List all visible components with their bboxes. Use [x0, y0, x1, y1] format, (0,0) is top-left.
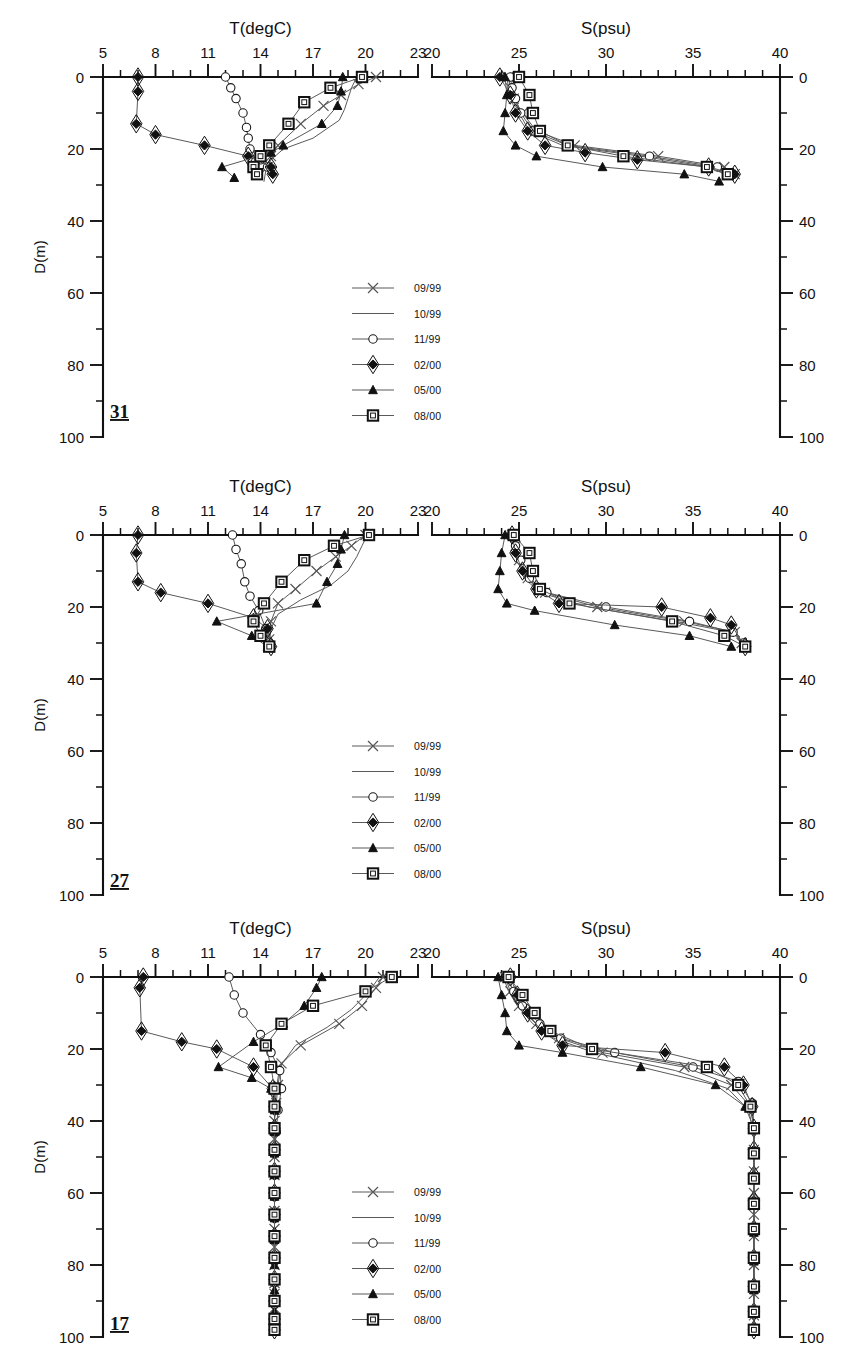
open-circle-marker	[225, 973, 233, 981]
legend: 09/9910/9911/9902/0005/0008/00	[352, 740, 441, 880]
profile-figure: 020406080100D(m)020406080100581114172023…	[0, 0, 853, 1366]
legend-item-10-99[interactable]: 10/99	[352, 308, 441, 320]
legend-item-02-00[interactable]: 02/00	[352, 355, 441, 373]
temperature-tick-label: 20	[357, 44, 374, 61]
depth-tick-label: 20	[799, 599, 816, 616]
filled-triangle-marker	[501, 108, 510, 116]
open-circle-marker	[221, 73, 229, 81]
square-inner	[527, 93, 532, 98]
depth-axis-left: 020406080100D(m)	[31, 969, 103, 1346]
square-inner	[279, 579, 284, 584]
legend-label: 09/99	[414, 282, 441, 294]
open-circle-marker	[239, 109, 247, 117]
square-inner	[263, 1043, 268, 1048]
legend-label: 08/00	[414, 1314, 441, 1326]
square-inner	[363, 989, 368, 994]
square-inner	[752, 1309, 757, 1314]
salinity-tick-label: 20	[424, 944, 441, 961]
temperature-tick-label: 14	[252, 502, 269, 519]
depth-tick-label: 40	[67, 1113, 84, 1130]
legend-item-02-00[interactable]: 02/00	[352, 813, 441, 831]
square-inner	[565, 143, 570, 148]
filled-triangle-marker	[495, 566, 504, 574]
square-inner	[520, 993, 525, 998]
depth-tick-label: 60	[67, 743, 84, 760]
station-31-temperature: 581114172023T(degC)	[99, 19, 427, 183]
salinity-tick-label: 25	[511, 44, 528, 61]
square-inner	[389, 975, 394, 980]
square-inner	[752, 1284, 757, 1289]
square-inner	[752, 1255, 757, 1260]
series-line	[140, 977, 275, 1330]
square-inner	[311, 1003, 316, 1008]
square-inner	[272, 1327, 277, 1332]
legend-label: 09/99	[414, 1186, 441, 1198]
legend-item-10-99[interactable]: 10/99	[352, 1212, 441, 1224]
depth-tick-label: 0	[799, 969, 807, 986]
open-circle-marker	[246, 592, 254, 600]
depth-tick-label: 100	[799, 1329, 824, 1346]
salinity-axis-title: S(psu)	[581, 19, 631, 38]
legend-item-08-00[interactable]: 08/00	[352, 1314, 441, 1326]
legend-item-11-99[interactable]: 11/99	[352, 791, 441, 803]
square-inner	[258, 154, 263, 159]
temperature-tick-label: 20	[357, 944, 374, 961]
salinity-tick-label: 35	[685, 44, 702, 61]
square-inner	[705, 1065, 710, 1070]
temperature-tick-label: 17	[305, 502, 322, 519]
legend-item-10-99[interactable]: 10/99	[352, 766, 441, 778]
legend-item-09-99[interactable]: 09/99	[352, 740, 441, 752]
salinity-tick-label: 30	[598, 502, 615, 519]
salinity-axis-title: S(psu)	[581, 477, 631, 496]
depth-tick-label: 40	[67, 213, 84, 230]
station-label: 17	[110, 1313, 130, 1334]
filled-triangle-marker	[312, 983, 321, 991]
salinity-tick-label: 35	[685, 502, 702, 519]
panel-station-17: 020406080100D(m)020406080100581114172023…	[0, 900, 853, 1360]
open-circle-marker	[685, 617, 693, 625]
legend-item-02-00[interactable]: 02/00	[352, 1259, 441, 1277]
legend-item-08-00[interactable]: 08/00	[352, 410, 441, 422]
depth-axis-right: 020406080100	[780, 69, 824, 446]
square-inner	[531, 111, 536, 116]
legend-item-08-00[interactable]: 08/00	[352, 868, 441, 880]
filled-triangle-marker	[249, 1037, 258, 1045]
open-circle-marker	[369, 335, 377, 343]
square-inner	[367, 533, 372, 538]
square-inner	[272, 1147, 277, 1152]
legend-item-09-99[interactable]: 09/99	[352, 282, 441, 294]
filled-triangle-marker	[494, 584, 503, 592]
square-inner	[748, 1104, 753, 1109]
legend-item-09-99[interactable]: 09/99	[352, 1186, 441, 1198]
depth-tick-label: 0	[799, 527, 807, 544]
legend-item-05-00[interactable]: 05/00	[352, 384, 441, 396]
x-cross-marker	[334, 1019, 344, 1029]
filled-triangle-marker	[532, 152, 541, 160]
temperature-axis-title: T(degC)	[229, 919, 291, 938]
legend-item-11-99[interactable]: 11/99	[352, 333, 441, 345]
legend-item-11-99[interactable]: 11/99	[352, 1237, 441, 1249]
depth-axis-title: D(m)	[31, 698, 48, 731]
square-inner	[517, 75, 522, 80]
salinity-tick-label: 30	[598, 44, 615, 61]
depth-tick-label: 20	[799, 141, 816, 158]
open-circle-marker	[241, 578, 249, 586]
x-cross-marker	[312, 566, 322, 576]
depth-axis-title: D(m)	[31, 1140, 48, 1173]
depth-axis-left: 020406080100D(m)	[31, 527, 103, 904]
temperature-tick-label: 17	[305, 944, 322, 961]
open-circle-marker	[230, 991, 238, 999]
depth-tick-label: 60	[67, 1185, 84, 1202]
square-inner	[736, 1083, 741, 1088]
square-inner	[272, 1234, 277, 1239]
legend-item-05-00[interactable]: 05/00	[352, 1288, 441, 1300]
filled-triangle-marker	[502, 599, 511, 607]
open-circle-marker	[228, 531, 236, 539]
legend-label: 08/00	[414, 410, 441, 422]
square-inner	[272, 1126, 277, 1131]
legend-item-05-00[interactable]: 05/00	[352, 842, 441, 854]
square-inner	[302, 558, 307, 563]
station-31-canvas: 020406080100D(m)020406080100581114172023…	[0, 0, 853, 460]
depth-tick-label: 80	[67, 815, 84, 832]
panel-station-31: 020406080100D(m)020406080100581114172023…	[0, 0, 853, 460]
